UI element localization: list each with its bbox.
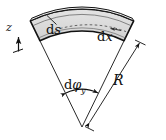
label-dx: dx [97, 30, 113, 43]
label-dphi-y: dφy [64, 78, 85, 95]
label-dx-sym: x [105, 29, 112, 44]
curved-shell-element-figure: ds dx dφy R z [0, 0, 166, 140]
radius-dimension-tick-apex [85, 127, 94, 132]
label-ds-sym: s [54, 22, 61, 37]
label-ds: ds [46, 23, 61, 36]
label-z-sym: z [6, 21, 12, 34]
label-axis-z: z [6, 22, 12, 33]
label-radius-R: R [113, 73, 124, 87]
radius-dimension-tick-outer [135, 40, 146, 45]
label-R-sym: R [113, 72, 124, 88]
shell-diagram-svg [0, 0, 166, 140]
label-dphi-subscript: y [81, 86, 86, 95]
